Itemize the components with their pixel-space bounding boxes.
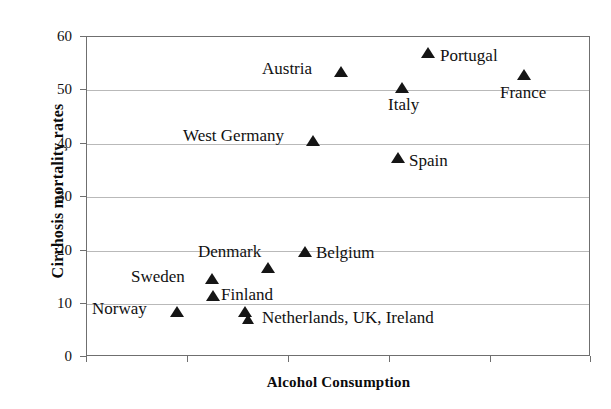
- point-label-denmark: Denmark: [198, 243, 261, 260]
- data-point-uk-ireland: [242, 314, 254, 324]
- point-label-norway: Norway: [92, 300, 147, 317]
- point-label-finland: Finland: [221, 286, 273, 303]
- data-point-italy: [395, 82, 409, 93]
- gridline-40: [87, 144, 589, 145]
- x-tick-mark-3: [288, 356, 289, 362]
- x-tick-mark-6: [590, 356, 591, 362]
- x-tick-mark-2: [187, 356, 188, 362]
- data-point-west-germany: [306, 135, 320, 146]
- data-point-france: [517, 69, 531, 80]
- x-tick-mark-1: [86, 356, 87, 362]
- data-point-finland: [206, 290, 220, 301]
- scatter-chart: Cirrhosis mortality rates 60 50 40 30 20…: [0, 0, 611, 409]
- y-tick-label-30: 30: [8, 188, 72, 205]
- gridline-10: [87, 304, 589, 305]
- y-tick-label-40: 40: [8, 135, 72, 152]
- data-point-portugal: [421, 47, 435, 58]
- point-label-spain: Spain: [409, 152, 448, 169]
- x-axis-title: Alcohol Consumption: [86, 374, 591, 391]
- y-tick-label-50: 50: [8, 81, 72, 98]
- point-label-netherlands-uk-ireland: Netherlands, UK, Ireland: [262, 309, 434, 326]
- data-point-sweden: [205, 273, 219, 284]
- point-label-portugal: Portugal: [440, 47, 498, 64]
- data-point-denmark: [261, 262, 275, 273]
- gridline-30: [87, 197, 589, 198]
- data-point-belgium: [298, 246, 312, 257]
- data-point-spain: [391, 152, 405, 163]
- data-point-austria: [334, 66, 348, 77]
- y-tick-label-20: 20: [8, 242, 72, 259]
- y-tick-label-0: 0: [8, 348, 72, 365]
- point-label-italy: Italy: [388, 96, 419, 113]
- data-point-norway: [170, 306, 184, 317]
- point-label-west-germany: West Germany: [183, 127, 284, 144]
- y-tick-label-10: 10: [8, 295, 72, 312]
- point-label-sweden: Sweden: [131, 268, 185, 285]
- x-tick-mark-5: [490, 356, 491, 362]
- y-tick-label-60: 60: [8, 28, 72, 45]
- point-label-austria: Austria: [262, 60, 312, 77]
- x-tick-mark-4: [389, 356, 390, 362]
- point-label-france: France: [500, 84, 546, 101]
- point-label-belgium: Belgium: [316, 244, 375, 261]
